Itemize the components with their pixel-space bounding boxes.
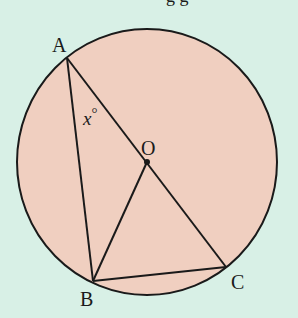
- label-o: O: [141, 137, 155, 159]
- center-point-o: [144, 159, 150, 165]
- label-a: A: [52, 34, 67, 56]
- label-c: C: [231, 271, 244, 293]
- label-b: B: [80, 288, 93, 310]
- cropped-heading-text: g g: [166, 0, 189, 6]
- circle-diagram: g g A O B C x°: [0, 0, 298, 318]
